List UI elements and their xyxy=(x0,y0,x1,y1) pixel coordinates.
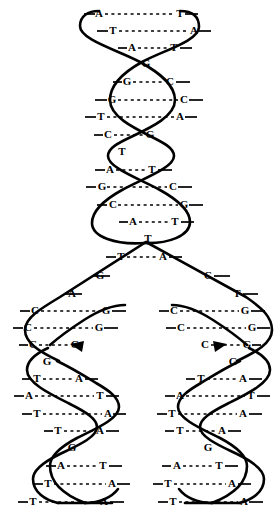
base-label: G xyxy=(95,321,104,333)
base-label: C xyxy=(104,128,112,140)
base-label: T xyxy=(118,145,126,157)
base-pair: T A xyxy=(186,372,262,384)
base-label: T xyxy=(233,287,241,299)
base-label: G xyxy=(68,441,77,453)
base-label: T xyxy=(99,459,107,471)
base-label: C xyxy=(166,75,174,87)
daughter-right-backbones xyxy=(172,305,270,503)
base-pair: G C xyxy=(95,93,203,105)
base-label: G xyxy=(204,441,213,453)
base-label: G xyxy=(43,355,52,367)
base-label: C xyxy=(180,93,188,105)
base-label: G xyxy=(248,321,257,333)
base-label: G xyxy=(102,304,111,316)
base-label: T xyxy=(247,389,255,401)
base-label: C xyxy=(169,180,177,192)
base-pair: C G xyxy=(20,304,126,316)
base-pair: A T xyxy=(84,7,198,19)
daughter-right-rungs: C G C G C G G xyxy=(153,304,270,507)
base-pair: A T xyxy=(14,389,119,401)
base-single: G xyxy=(142,57,151,69)
base-label: T xyxy=(215,459,223,471)
base-label: A xyxy=(239,407,247,419)
base-label: G xyxy=(243,338,252,350)
base-label: T xyxy=(96,389,104,401)
base-label: A xyxy=(218,424,226,436)
base-pair: T A xyxy=(44,424,119,436)
base-label: G xyxy=(98,180,107,192)
base-pair: C G xyxy=(94,128,155,140)
base-pair: T A xyxy=(97,24,211,36)
base-label: T xyxy=(164,477,172,489)
dna-diagram-canvas: A T T A A T G xyxy=(0,0,279,518)
base-label: G xyxy=(146,128,155,140)
base-label: T xyxy=(148,163,156,175)
base-pair: A T xyxy=(46,459,122,471)
base-single: G xyxy=(43,355,52,367)
base-label: G xyxy=(241,304,250,316)
base-label: A xyxy=(240,495,248,507)
base-label: A xyxy=(57,459,65,471)
base-pair: T A xyxy=(158,495,263,507)
base-pair: T A xyxy=(153,477,251,489)
base-label: T xyxy=(44,477,52,489)
daughter-right-strand2-cap xyxy=(179,489,212,503)
base-label: A xyxy=(68,287,76,299)
base-label: G xyxy=(108,93,117,105)
base-label: T xyxy=(169,495,177,507)
fork-left-template xyxy=(25,242,146,361)
base-label: A xyxy=(128,41,136,53)
base-label: A xyxy=(100,495,108,507)
dna-replication-figure: A T T A A T G xyxy=(0,0,279,518)
base-label: G xyxy=(142,57,151,69)
base-label: A xyxy=(190,24,198,36)
base-pair: T A xyxy=(85,110,197,122)
base-pair: A T xyxy=(118,41,192,53)
base-label: A xyxy=(228,477,236,489)
base-pair: C G xyxy=(201,338,261,350)
base-label: A xyxy=(239,372,247,384)
base-label: T xyxy=(109,24,117,36)
base-label: C xyxy=(109,198,117,210)
base-label: T xyxy=(54,424,62,436)
base-label: T xyxy=(29,495,37,507)
base-pair: T A xyxy=(22,407,126,419)
base-label: T xyxy=(176,7,184,19)
base-label: T xyxy=(176,424,184,436)
base-label: C xyxy=(201,338,209,350)
base-label: T xyxy=(33,407,41,419)
base-label: C xyxy=(31,304,39,316)
base-label: T xyxy=(170,41,178,53)
base-label: G xyxy=(180,198,189,210)
base-pair: G C xyxy=(113,75,190,87)
base-single: G xyxy=(204,441,213,453)
base-label: T xyxy=(171,215,179,227)
base-pair: A T xyxy=(162,459,238,471)
base-label: C xyxy=(24,321,32,333)
base-pair: T A xyxy=(33,477,130,489)
base-label: C xyxy=(170,304,178,316)
base-label: C xyxy=(29,338,37,350)
base-label: T xyxy=(97,110,105,122)
base-pair: C G xyxy=(13,321,118,333)
base-single: T xyxy=(118,145,126,157)
base-label: A xyxy=(173,459,181,471)
base-label: A xyxy=(75,372,83,384)
base-label: G xyxy=(71,338,80,350)
base-label: A xyxy=(106,163,114,175)
base-label: A xyxy=(95,7,103,19)
base-label: A xyxy=(104,407,112,419)
base-label: A xyxy=(96,424,104,436)
base-pair: C G xyxy=(19,338,80,350)
base-label: G xyxy=(229,355,238,367)
base-label: T xyxy=(33,372,41,384)
base-label: C xyxy=(177,321,185,333)
base-label: A xyxy=(108,477,116,489)
base-label: C xyxy=(204,269,212,281)
base-label: T xyxy=(168,407,176,419)
base-label: T xyxy=(197,372,205,384)
base-pair: A T xyxy=(165,389,270,401)
base-single: G xyxy=(68,441,77,453)
base-label: A xyxy=(129,215,137,227)
base-label: A xyxy=(176,389,184,401)
